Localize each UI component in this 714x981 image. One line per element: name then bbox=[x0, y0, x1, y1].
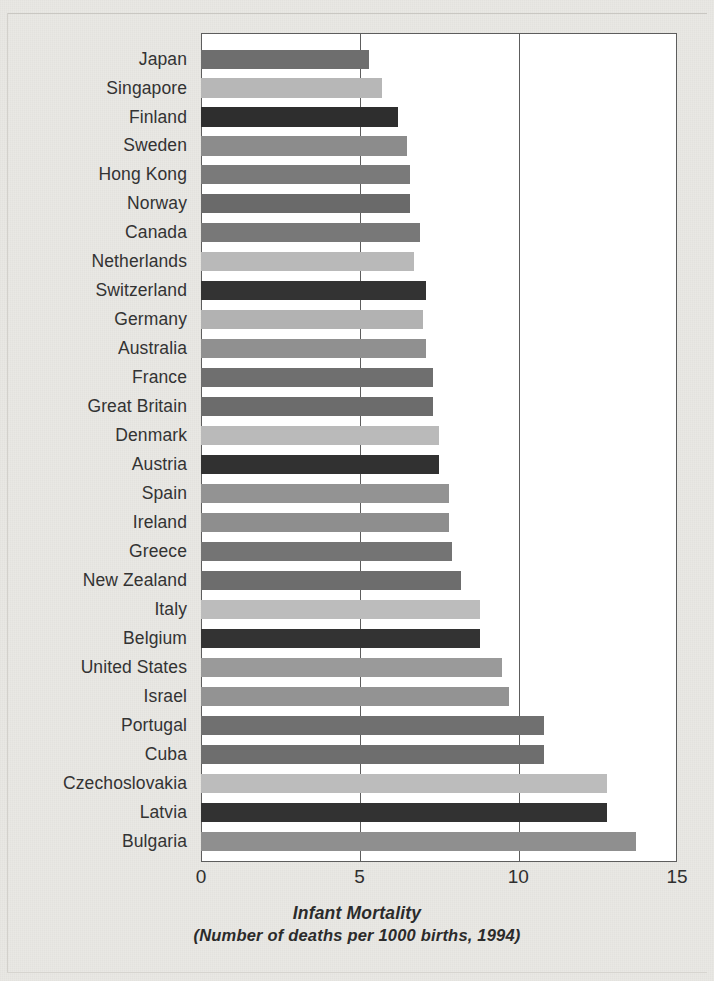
category-label: Italy bbox=[154, 595, 187, 624]
category-label: Finland bbox=[129, 103, 187, 132]
category-label: Belgium bbox=[123, 624, 187, 653]
category-label: Latvia bbox=[140, 798, 187, 827]
category-label: Denmark bbox=[115, 421, 187, 450]
category-label: Switzerland bbox=[95, 276, 187, 305]
x-tick-label: 5 bbox=[354, 866, 365, 888]
gridline-10 bbox=[519, 34, 520, 861]
category-label: Sweden bbox=[123, 131, 187, 160]
category-label: France bbox=[132, 363, 187, 392]
category-label: United States bbox=[81, 653, 187, 682]
plot-area bbox=[201, 33, 677, 862]
category-label: Portugal bbox=[121, 711, 187, 740]
category-label: Greece bbox=[129, 537, 187, 566]
chart-subtitle: (Number of deaths per 1000 births, 1994) bbox=[0, 926, 714, 945]
category-label: Great Britain bbox=[87, 392, 187, 421]
category-label: Canada bbox=[125, 218, 187, 247]
chart-title: Infant Mortality bbox=[0, 903, 714, 924]
category-label: Singapore bbox=[106, 74, 187, 103]
category-label: Norway bbox=[127, 189, 187, 218]
category-label: Bulgaria bbox=[122, 827, 187, 856]
category-label: Spain bbox=[142, 479, 187, 508]
gridline-5 bbox=[360, 34, 361, 861]
category-label: Israel bbox=[144, 682, 187, 711]
x-tick-label: 0 bbox=[196, 866, 207, 888]
category-label: Ireland bbox=[133, 508, 187, 537]
category-label: Hong Kong bbox=[99, 160, 187, 189]
category-label: Australia bbox=[118, 334, 187, 363]
category-label: Japan bbox=[139, 45, 187, 74]
chart-caption: Infant Mortality (Number of deaths per 1… bbox=[0, 903, 714, 945]
x-tick-label: 10 bbox=[508, 866, 529, 888]
category-label: Austria bbox=[132, 450, 187, 479]
infant-mortality-bar-chart: JapanSingaporeFinlandSwedenHong KongNorw… bbox=[0, 0, 714, 981]
category-label: Czechoslovakia bbox=[63, 769, 187, 798]
category-axis-labels: JapanSingaporeFinlandSwedenHong KongNorw… bbox=[0, 33, 195, 862]
category-label: New Zealand bbox=[83, 566, 187, 595]
x-tick-label: 15 bbox=[666, 866, 687, 888]
value-axis-ticks: 051015 bbox=[201, 866, 677, 896]
category-label: Cuba bbox=[145, 740, 187, 769]
category-label: Germany bbox=[114, 305, 187, 334]
category-label: Netherlands bbox=[92, 247, 187, 276]
